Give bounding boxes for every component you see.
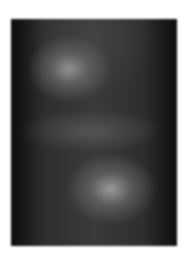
blurred-photo xyxy=(11,19,177,246)
